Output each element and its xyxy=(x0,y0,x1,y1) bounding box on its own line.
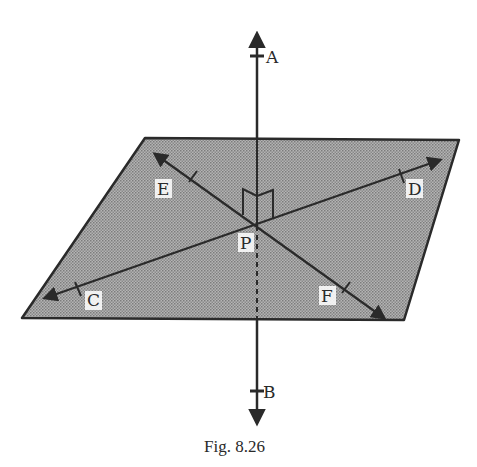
label-f: F xyxy=(321,286,333,306)
label-d: D xyxy=(408,179,422,199)
perpendicular-line-to-plane-diagram: A B C D E F P Fig. 8.26 xyxy=(0,0,477,467)
label-c: C xyxy=(87,290,100,310)
figure-caption: Fig. 8.26 xyxy=(204,437,265,456)
label-a: A xyxy=(265,47,279,67)
label-b: B xyxy=(263,382,276,402)
label-p: P xyxy=(240,233,251,253)
label-e: E xyxy=(157,179,169,199)
